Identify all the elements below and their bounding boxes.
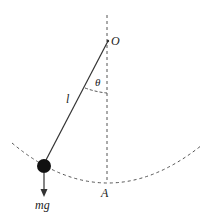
pendulum-bob xyxy=(37,159,51,173)
pendulum-diagram: O θ l A mg xyxy=(0,0,215,222)
angle-label: θ xyxy=(95,76,101,88)
lowest-point-label: A xyxy=(100,186,109,200)
weight-label: mg xyxy=(35,198,50,212)
pivot-label: O xyxy=(111,34,120,48)
pivot-point xyxy=(107,40,109,42)
angle-marker xyxy=(85,88,107,93)
length-label: l xyxy=(66,92,70,106)
weight-arrow-head-icon xyxy=(41,189,48,197)
pendulum-rod xyxy=(46,41,108,160)
